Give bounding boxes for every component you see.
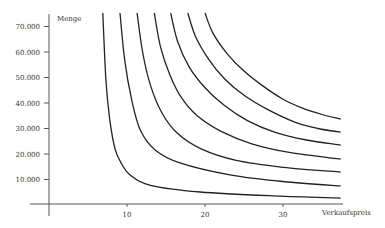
y-tick-label: 50.000	[16, 74, 41, 82]
y-axis-title: Menge	[57, 15, 81, 23]
y-ticks: 10.00020.00030.00040.00050.00060.00070.0…	[16, 23, 50, 184]
iso-revenue-chart: 102030 10.00020.00030.00040.00050.00060.…	[0, 0, 385, 228]
curve-7	[205, 13, 341, 119]
curves	[103, 13, 341, 198]
x-tick-label: 10	[123, 211, 132, 219]
curve-5	[171, 13, 341, 145]
curve-6	[188, 13, 341, 132]
y-tick-label: 70.000	[16, 23, 41, 31]
y-tick-label: 60.000	[16, 49, 41, 57]
y-tick-label: 10.000	[16, 176, 41, 184]
curve-3	[137, 13, 341, 172]
y-tick-label: 40.000	[16, 100, 41, 108]
y-tick-label: 20.000	[16, 151, 41, 159]
y-tick-label: 30.000	[16, 125, 41, 133]
x-axis-title: Verkaufspreis	[321, 209, 371, 217]
x-ticks: 102030	[123, 204, 288, 219]
curve-1	[103, 13, 341, 198]
curve-2	[120, 13, 341, 186]
x-tick-label: 20	[201, 211, 210, 219]
x-tick-label: 30	[279, 211, 288, 219]
